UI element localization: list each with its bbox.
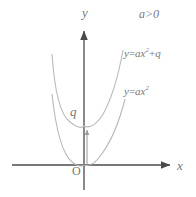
curve-lower-parabola (52, 94, 125, 166)
origin-label: O (72, 165, 81, 177)
x-axis-label: x (177, 159, 183, 172)
y-axis-label: y (82, 6, 88, 19)
curve-upper-shift: q (155, 47, 161, 59)
condition-label: a>0 (139, 8, 159, 20)
curve-lower-label: y=ax2 (124, 86, 149, 97)
curve-upper-parabola (52, 50, 123, 127)
parabola-figure: y x O q a>0 y=ax2+q y=ax2 (0, 0, 196, 197)
curve-lower-exponent: 2 (146, 84, 149, 91)
curve-upper-label: y=ax2+q (124, 48, 161, 59)
figure-canvas (0, 0, 196, 197)
q-value-label: q (70, 105, 77, 118)
